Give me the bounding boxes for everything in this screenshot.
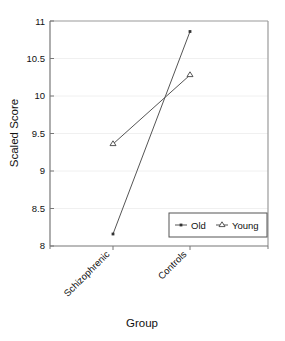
legend-label-old: Old (191, 220, 206, 231)
figure-container: 8 8.5 9 9.5 10 10.5 11 Scaled Score Schi… (0, 0, 285, 341)
series-old-point-controls (189, 30, 192, 33)
y-tick-label-10: 10 (34, 90, 45, 101)
legend-marker-old-dot-icon (180, 224, 183, 227)
legend[interactable]: Old Young (169, 213, 267, 237)
series-old-point-schizophrenic (112, 233, 115, 236)
y-tick-label-11: 11 (35, 16, 45, 27)
legend-label-young: Young (232, 220, 259, 231)
line-chart: 8 8.5 9 9.5 10 10.5 11 Scaled Score Schi… (0, 0, 285, 341)
x-tick-marks (50, 246, 268, 250)
x-axis-title: Group (126, 317, 158, 329)
y-axis-title: Scaled Score (8, 99, 20, 167)
x-tick-label-schizophrenic: Schizophrenic (61, 248, 111, 298)
y-tick-label-9.5: 9.5 (32, 128, 45, 139)
y-tick-label-9: 9 (40, 165, 45, 176)
y-tick-label-8.5: 8.5 (32, 203, 45, 214)
y-tick-labels: 8 8.5 9 9.5 10 10.5 11 (27, 16, 46, 251)
y-tick-label-10.5: 10.5 (27, 53, 46, 64)
x-tick-label-controls: Controls (156, 248, 189, 281)
y-tick-label-8: 8 (40, 240, 45, 251)
